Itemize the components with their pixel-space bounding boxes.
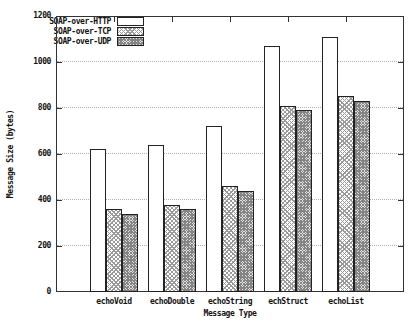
y-tick-right-800 [398, 108, 403, 109]
y-tick-right-1000 [398, 62, 403, 63]
y-axis-title: Message Size (bytes) [6, 110, 15, 198]
bar-chart: Message Size (bytes) Message Type SOAP-o… [0, 0, 416, 329]
y-tick-label-1200: 1200 [19, 11, 51, 21]
y-tick-label-600: 600 [19, 149, 51, 159]
y-tick-label-1000: 1000 [19, 57, 51, 67]
bar-SOAP-over-HTTP-echStruct [264, 46, 280, 292]
bar-SOAP-over-UDP-echStruct [296, 110, 312, 292]
x-tick-label-echoList: echoList [306, 297, 386, 307]
y-tick-left-400 [57, 200, 62, 201]
bar-SOAP-over-UDP-echoList [354, 101, 370, 292]
y-tick-left-600 [57, 154, 62, 155]
y-tick-left-200 [57, 246, 62, 247]
bar-SOAP-over-TCP-echStruct [280, 106, 296, 292]
bar-SOAP-over-HTTP-echoList [322, 37, 338, 292]
y-tick-left-1000 [57, 62, 62, 63]
y-tick-left-1200 [57, 16, 62, 17]
y-tick-right-1200 [398, 16, 403, 17]
bar-SOAP-over-TCP-echoList [338, 96, 354, 292]
x-tick-top-echoVoid [114, 17, 115, 22]
gridline-1000 [57, 61, 403, 62]
x-tick-top-echoList [346, 17, 347, 22]
bar-SOAP-over-UDP-echoString [238, 191, 254, 292]
y-tick-right-400 [398, 200, 403, 201]
y-tick-label-400: 400 [19, 195, 51, 205]
bar-SOAP-over-HTTP-echoVoid [90, 149, 106, 292]
bar-SOAP-over-TCP-echoString [222, 186, 238, 292]
y-tick-label-0: 0 [19, 287, 51, 297]
y-tick-right-600 [398, 154, 403, 155]
x-tick-top-echoDouble [172, 17, 173, 22]
x-axis-title: Message Type [204, 309, 257, 318]
y-tick-label-800: 800 [19, 103, 51, 113]
bar-SOAP-over-UDP-echoDouble [180, 209, 196, 292]
y-tick-left-0 [57, 291, 62, 292]
x-tick-top-echStruct [288, 17, 289, 22]
bar-SOAP-over-UDP-echoVoid [122, 214, 138, 292]
y-tick-right-0 [398, 291, 403, 292]
x-tick-top-echoString [230, 17, 231, 22]
y-tick-right-200 [398, 246, 403, 247]
bar-SOAP-over-HTTP-echoString [206, 126, 222, 292]
bar-SOAP-over-TCP-echoDouble [164, 205, 180, 292]
bar-SOAP-over-TCP-echoVoid [106, 209, 122, 292]
y-tick-label-200: 200 [19, 241, 51, 251]
bar-SOAP-over-HTTP-echoDouble [148, 145, 164, 292]
y-tick-left-800 [57, 108, 62, 109]
